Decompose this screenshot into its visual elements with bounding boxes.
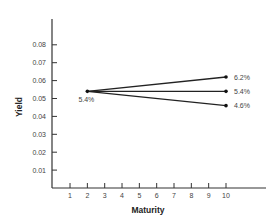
- y-tick-label: 0.06: [32, 77, 46, 84]
- y-tick-label: 0.04: [32, 113, 46, 120]
- y-tick-label: 0.08: [32, 41, 46, 48]
- y-tick-label: 0.07: [32, 59, 46, 66]
- end-point-label: 5.4%: [234, 88, 250, 95]
- start-point-marker: [86, 90, 90, 94]
- y-axis-ticks: 0.010.020.030.040.050.060.070.08: [32, 41, 57, 173]
- x-axis-ticks: 12345678910: [68, 183, 230, 199]
- x-tick-label: 10: [222, 192, 230, 199]
- x-axis-title: Maturity: [131, 205, 164, 215]
- x-tick-label: 2: [85, 192, 89, 199]
- series-lines: [86, 75, 228, 107]
- series-line: [87, 91, 226, 105]
- start-point-label: 5.4%: [78, 96, 94, 103]
- y-tick-label: 0.05: [32, 95, 46, 102]
- x-tick-label: 3: [103, 192, 107, 199]
- series-line: [87, 77, 226, 91]
- x-tick-label: 4: [120, 192, 124, 199]
- x-tick-label: 8: [189, 192, 193, 199]
- y-tick-label: 0.02: [32, 149, 46, 156]
- x-tick-label: 9: [207, 192, 211, 199]
- end-point-label: 4.6%: [234, 102, 250, 109]
- y-tick-label: 0.01: [32, 167, 46, 174]
- end-point-marker: [224, 104, 228, 108]
- x-tick-label: 1: [68, 192, 72, 199]
- y-axis-title: Yield: [14, 97, 24, 117]
- end-point-marker: [224, 90, 228, 94]
- end-point-marker: [224, 75, 228, 79]
- y-tick-label: 0.03: [32, 131, 46, 138]
- end-point-label: 6.2%: [234, 74, 250, 81]
- x-tick-label: 7: [172, 192, 176, 199]
- yield-chart: 0.010.020.030.040.050.060.070.08 1234567…: [0, 0, 278, 223]
- x-tick-label: 5: [137, 192, 141, 199]
- x-tick-label: 6: [155, 192, 159, 199]
